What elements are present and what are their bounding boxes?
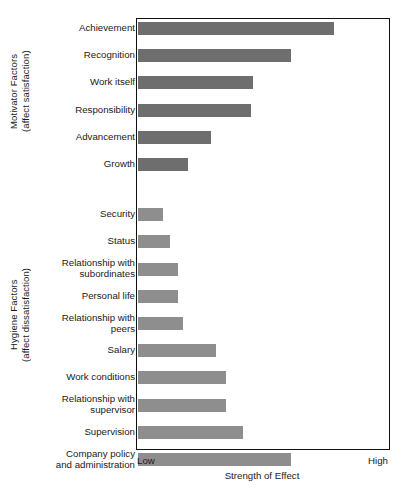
x-axis-low-label: Low [137,455,155,466]
bar-row: Relationship with subordinates [0,263,403,276]
bar-category-label: Achievement [25,22,135,33]
bar-hygiene [138,426,244,439]
bar-row: Responsibility [0,104,403,117]
bar-row: Work conditions [0,371,403,384]
bar-category-label: Growth [25,158,135,169]
bar-hygiene [138,453,292,466]
bar-hygiene [138,399,226,412]
bar-category-label: Security [25,208,135,219]
bar-hygiene [138,317,183,330]
bar-category-label: Work itself [25,76,135,87]
bar-motivator [138,131,211,144]
bar-category-label: Status [25,235,135,246]
bar-hygiene [138,371,226,384]
bar-row: Company policy and administration [0,453,403,466]
bar-category-label: Supervision [25,426,135,437]
bar-row: Relationship with peers [0,317,403,330]
bar-row: Advancement [0,131,403,144]
bar-row: Achievement [0,22,403,35]
bar-motivator [138,76,254,89]
bar-row: Relationship with supervisor [0,399,403,412]
x-axis-title: Strength of Effect [136,470,388,481]
bar-row: Personal life [0,290,403,303]
bar-category-label: Relationship with peers [25,312,135,334]
bar-motivator [138,104,251,117]
bar-hygiene [138,344,216,357]
bar-motivator [138,49,292,62]
bar-category-label: Company policy and administration [25,448,135,470]
bar-hygiene [138,208,163,221]
bar-category-label: Relationship with supervisor [25,393,135,415]
x-axis-high-label: High [368,455,388,466]
bar-hygiene [138,235,171,248]
bar-row: Supervision [0,426,403,439]
bar-category-label: Salary [25,344,135,355]
bar-category-label: Relationship with subordinates [25,257,135,279]
bar-category-label: Work conditions [25,371,135,382]
bar-row: Work itself [0,76,403,89]
bar-row: Security [0,208,403,221]
bar-category-label: Responsibility [25,104,135,115]
chart-container: Motivator Factors (affect satisfaction) … [0,0,403,488]
bar-hygiene [138,263,178,276]
bar-row: Salary [0,344,403,357]
bar-motivator [138,158,188,171]
bar-motivator [138,22,335,35]
bar-category-label: Personal life [25,290,135,301]
bar-row: Recognition [0,49,403,62]
bar-category-label: Recognition [25,49,135,60]
bar-row: Growth [0,158,403,171]
bar-row: Status [0,235,403,248]
bar-category-label: Advancement [25,131,135,142]
bar-hygiene [138,290,178,303]
